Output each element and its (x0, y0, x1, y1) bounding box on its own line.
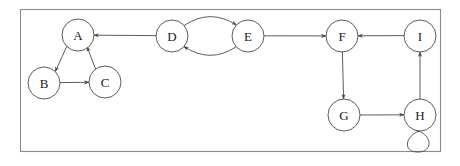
node-B[interactable]: B (28, 67, 60, 99)
node-D-circle[interactable] (156, 20, 188, 52)
node-F-circle[interactable] (326, 20, 358, 52)
node-C-circle[interactable] (89, 66, 121, 98)
node-H[interactable]: H (404, 99, 436, 131)
graph-figure: A B C D E F (0, 0, 460, 166)
node-A[interactable]: A (62, 19, 94, 51)
node-E[interactable]: E (232, 20, 264, 52)
node-H-circle[interactable] (404, 99, 436, 131)
node-A-circle[interactable] (62, 19, 94, 51)
node-I-circle[interactable] (404, 20, 436, 52)
node-G-circle[interactable] (328, 99, 360, 131)
edge-A-to-B (55, 46, 67, 71)
node-D[interactable]: D (156, 20, 188, 52)
node-B-circle[interactable] (28, 67, 60, 99)
edge-H-self-loop (407, 130, 429, 152)
node-E-circle[interactable] (232, 20, 264, 52)
edge-D-to-E (184, 17, 236, 26)
edge-F-to-G (342, 52, 343, 99)
graph-canvas: A B C D E F (0, 0, 460, 166)
node-C[interactable]: C (89, 66, 121, 98)
node-G[interactable]: G (328, 99, 360, 131)
node-I[interactable]: I (404, 20, 436, 52)
edge-E-to-D (184, 46, 236, 55)
node-F[interactable]: F (326, 20, 358, 52)
edge-C-to-A (87, 47, 96, 69)
